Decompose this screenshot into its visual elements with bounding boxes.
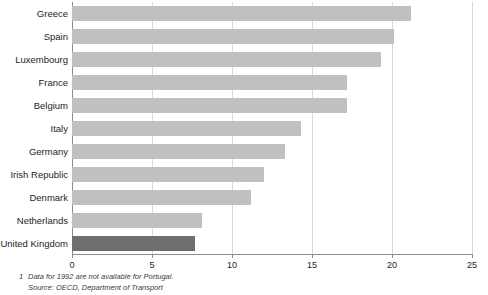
bar-netherlands[interactable] — [72, 213, 202, 228]
bar-irish-republic[interactable] — [72, 167, 264, 182]
category-label-germany: Germany — [0, 140, 68, 163]
bar-row: United Kingdom — [0, 232, 488, 255]
bar-row: Denmark — [0, 186, 488, 209]
bar-spain[interactable] — [72, 29, 394, 44]
bar-row: Italy — [0, 117, 488, 140]
bar-france[interactable] — [72, 75, 347, 90]
category-label-italy: Italy — [0, 117, 68, 140]
bar-row: Belgium — [0, 94, 488, 117]
x-tick-10 — [232, 254, 233, 258]
bar-denmark[interactable] — [72, 190, 251, 205]
x-tick-label-15: 15 — [307, 260, 317, 271]
x-tick-label-20: 20 — [387, 260, 397, 271]
bar-row: Spain — [0, 25, 488, 48]
footnote-source: Source: OECD, Department of Transport — [28, 283, 484, 293]
bar-row: Irish Republic — [0, 163, 488, 186]
bar-chart: Greece Spain Luxembourg France Belgium I… — [0, 0, 488, 295]
x-tick-label-0: 0 — [69, 260, 74, 271]
bar-luxembourg[interactable] — [72, 52, 381, 67]
category-label-denmark: Denmark — [0, 186, 68, 209]
bar-italy[interactable] — [72, 121, 301, 136]
x-tick-5 — [152, 254, 153, 258]
footnote-marker: 1 — [19, 272, 28, 282]
bar-row: Luxembourg — [0, 48, 488, 71]
footnote-text: Data for 1992 are not available for Port… — [28, 272, 174, 281]
x-tick-20 — [392, 254, 393, 258]
x-tick-label-10: 10 — [227, 260, 237, 271]
footnotes: 1Data for 1992 are not available for Por… — [28, 272, 484, 293]
category-label-spain: Spain — [0, 25, 68, 48]
footnote-1: 1Data for 1992 are not available for Por… — [28, 272, 484, 282]
category-label-france: France — [0, 71, 68, 94]
x-tick-label-25: 25 — [467, 260, 477, 271]
bar-greece[interactable] — [72, 6, 411, 21]
bar-belgium[interactable] — [72, 98, 347, 113]
bar-row: France — [0, 71, 488, 94]
bar-germany[interactable] — [72, 144, 285, 159]
category-label-belgium: Belgium — [0, 94, 68, 117]
x-tick-label-5: 5 — [149, 260, 154, 271]
bar-row: Netherlands — [0, 209, 488, 232]
bar-united-kingdom[interactable] — [72, 236, 195, 251]
category-label-irish-republic: Irish Republic — [0, 163, 68, 186]
x-tick-0 — [72, 254, 73, 258]
category-label-greece: Greece — [0, 2, 68, 25]
x-axis-line — [72, 254, 473, 255]
x-tick-15 — [312, 254, 313, 258]
bar-row: Greece — [0, 2, 488, 25]
x-tick-25 — [472, 254, 473, 258]
category-label-netherlands: Netherlands — [0, 209, 68, 232]
bar-row: Germany — [0, 140, 488, 163]
category-label-luxembourg: Luxembourg — [0, 48, 68, 71]
category-label-united-kingdom: United Kingdom — [0, 232, 68, 255]
